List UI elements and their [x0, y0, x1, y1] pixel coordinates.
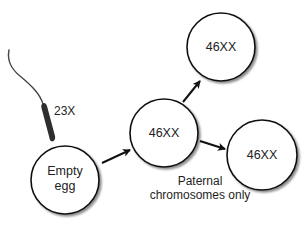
arrow-zygote-to-right: [200, 141, 225, 149]
sperm-tail: [8, 50, 43, 104]
right-cell-label: 46XX: [232, 148, 292, 163]
empty-egg-label-line2: egg: [35, 179, 95, 194]
empty-egg-label: Empty egg: [35, 164, 95, 194]
paternal-annotation: Paternal chromosomes only: [145, 174, 255, 202]
zygote-label: 46XX: [134, 126, 194, 141]
arrow-egg-to-zygote: [102, 150, 130, 163]
paternal-annotation-line1: Paternal: [145, 174, 255, 188]
empty-egg-label-line1: Empty: [35, 164, 95, 179]
top-cell-label: 46XX: [191, 40, 251, 55]
paternal-annotation-line2: chromosomes only: [145, 188, 255, 202]
arrow-zygote-to-top: [183, 81, 200, 102]
sperm-label: 23X: [54, 104, 84, 118]
